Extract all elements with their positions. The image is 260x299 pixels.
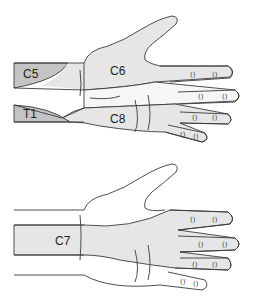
- label-c5: C5: [23, 67, 38, 81]
- region-c8: [62, 104, 231, 142]
- bottom-hand: () () () () () () () (): [14, 164, 239, 290]
- svg-text:(): (): [198, 93, 204, 101]
- svg-text:(): (): [190, 71, 196, 79]
- label-c7: C7: [55, 234, 70, 248]
- svg-text:(): (): [212, 114, 218, 122]
- svg-text:(): (): [193, 133, 199, 141]
- svg-text:(): (): [198, 241, 204, 249]
- svg-text:(): (): [180, 278, 186, 286]
- label-c8: C8: [110, 112, 125, 126]
- svg-text:(): (): [212, 71, 218, 79]
- svg-text:(): (): [222, 93, 228, 101]
- svg-text:(): (): [180, 131, 186, 139]
- dermatome-diagram: () () () () () () () () () () () () () (…: [0, 0, 260, 299]
- svg-text:(): (): [222, 241, 228, 249]
- svg-text:(): (): [212, 261, 218, 269]
- svg-text:(): (): [193, 280, 199, 288]
- svg-text:(): (): [190, 216, 196, 224]
- svg-text:(): (): [192, 114, 198, 122]
- top-hand: () () () () () () () (): [14, 16, 239, 142]
- svg-text:(): (): [192, 261, 198, 269]
- label-c6: C6: [110, 64, 125, 78]
- region-c7: [14, 210, 239, 270]
- label-t1: T1: [23, 107, 37, 121]
- svg-text:(): (): [212, 216, 218, 224]
